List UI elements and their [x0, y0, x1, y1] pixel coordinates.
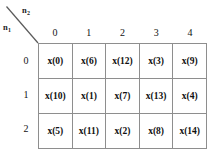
- table-row: x(10) x(1) x(7) x(13) x(4): [39, 79, 207, 114]
- cell-r0c4: x(9): [173, 44, 207, 79]
- axis-corner-header: n2 n1: [0, 0, 40, 45]
- cell-r2c3: x(8): [139, 114, 173, 149]
- cell-r1c1: x(1): [72, 79, 106, 114]
- cell-r1c2: x(7): [106, 79, 140, 114]
- table-row: x(0) x(6) x(12) x(3) x(9): [39, 44, 207, 79]
- cell-r0c2: x(12): [106, 44, 140, 79]
- index-mapping-figure: n2 n1 0 1 2 3 4 0 1 2 x(0) x(6) x(12) x(…: [0, 0, 214, 158]
- cell-r2c1: x(11): [72, 114, 106, 149]
- cell-r0c3: x(3): [139, 44, 173, 79]
- cell-r2c0: x(5): [39, 114, 73, 149]
- column-header-0: 0: [38, 24, 72, 41]
- row-header-2: 2: [16, 111, 36, 145]
- cell-r1c0: x(10): [39, 79, 73, 114]
- column-header-2: 2: [106, 24, 140, 41]
- column-header-3: 3: [139, 24, 173, 41]
- column-axis-label: n2: [22, 6, 30, 15]
- cell-r1c3: x(13): [139, 79, 173, 114]
- row-header-1: 1: [16, 77, 36, 111]
- column-header-4: 4: [173, 24, 207, 41]
- cell-r0c0: x(0): [39, 44, 73, 79]
- cell-r2c4: x(14): [173, 114, 207, 149]
- column-header-row: 0 1 2 3 4: [38, 24, 207, 41]
- table-row: x(5) x(11) x(2) x(8) x(14): [39, 114, 207, 149]
- row-axis-label: n1: [3, 23, 11, 32]
- row-header-column: 0 1 2: [16, 43, 36, 145]
- index-mapping-table: x(0) x(6) x(12) x(3) x(9) x(10) x(1) x(7…: [38, 43, 207, 149]
- cell-r2c2: x(2): [106, 114, 140, 149]
- cell-r0c1: x(6): [72, 44, 106, 79]
- column-header-1: 1: [72, 24, 106, 41]
- cell-r1c4: x(4): [173, 79, 207, 114]
- row-header-0: 0: [16, 43, 36, 77]
